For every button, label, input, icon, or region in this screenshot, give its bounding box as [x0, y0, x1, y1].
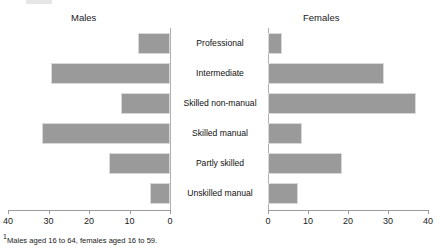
category-label: Intermediate [172, 63, 268, 84]
axis-tick-label: 10 [124, 216, 134, 226]
bar-male [121, 93, 170, 114]
category-label: Unskilled manual [172, 183, 268, 204]
bar-male [109, 153, 170, 174]
bar-female [268, 33, 282, 54]
population-pyramid-chart: Males Females ProfessionalIntermediateSk… [0, 0, 441, 248]
bar-male [138, 33, 170, 54]
axis-tick-label: 0 [265, 216, 270, 226]
axis-tick [428, 210, 429, 214]
footnote: 1Males aged 16 to 64, females aged 16 to… [3, 233, 157, 245]
axis-tick [308, 210, 309, 214]
axis-tick-label: 20 [343, 216, 353, 226]
bar-male [42, 123, 170, 144]
bar-female [268, 93, 416, 114]
axis-tick-label: 20 [84, 216, 94, 226]
category-label: Partly skilled [172, 153, 268, 174]
category-label: Professional [172, 33, 268, 54]
bar-male [150, 183, 170, 204]
axis-tick-label: 40 [3, 216, 13, 226]
male-zero-axis [170, 28, 171, 210]
category-label-column: ProfessionalIntermediateSkilled non-manu… [172, 28, 268, 208]
axis-tick [268, 210, 269, 214]
axis-tick [388, 210, 389, 214]
female-axis-scale: 010203040 [268, 210, 428, 234]
female-bars-pane [268, 28, 428, 208]
category-label: Skilled manual [172, 123, 268, 144]
axis-tick-label: 40 [423, 216, 433, 226]
male-bars-pane [8, 28, 170, 208]
bar-female [268, 123, 302, 144]
axis-tick [130, 210, 131, 214]
bar-female [268, 183, 298, 204]
axis-tick-label: 30 [43, 216, 53, 226]
axis-tick [89, 210, 90, 214]
axis-tick-label: 10 [303, 216, 313, 226]
scan-artifact-mark [26, 0, 52, 4]
bar-male [51, 63, 170, 84]
panel-title-females: Females [303, 12, 339, 23]
bar-female [268, 153, 342, 174]
axis-tick [170, 210, 171, 214]
axis-tick [49, 210, 50, 214]
panel-title-males: Males [71, 12, 96, 23]
axis-tick-label: 30 [383, 216, 393, 226]
axis-tick [8, 210, 9, 214]
footnote-text: Males aged 16 to 64, females aged 16 to … [7, 236, 157, 245]
category-label: Skilled non-manual [172, 93, 268, 114]
axis-tick [348, 210, 349, 214]
axis-tick-label: 0 [167, 216, 172, 226]
male-axis-scale: 403020100 [8, 210, 170, 234]
bar-female [268, 63, 384, 84]
